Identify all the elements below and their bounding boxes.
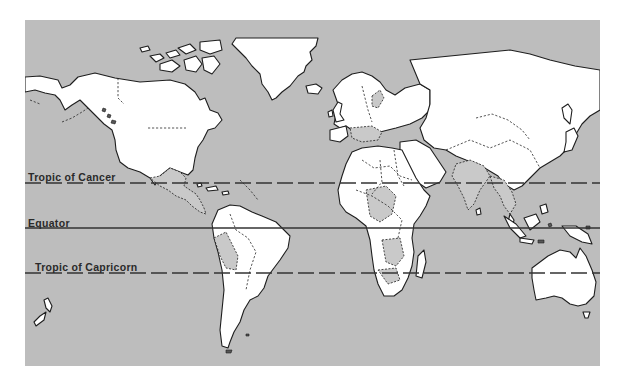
iceland [306, 84, 322, 94]
australia [532, 248, 596, 306]
japan [564, 128, 578, 152]
tasmania [583, 312, 590, 318]
north-america [25, 73, 222, 185]
europe [333, 72, 430, 138]
tropic-of-capricorn-label: Tropic of Capricorn [35, 261, 138, 273]
new-zealand [44, 298, 52, 312]
map-graphic [25, 20, 600, 366]
india [452, 160, 490, 210]
madagascar [416, 250, 426, 278]
equator-label: Equator [28, 217, 70, 229]
south-america [212, 205, 290, 348]
tropic-of-cancer-label: Tropic of Cancer [28, 171, 116, 183]
greenland [232, 38, 318, 100]
world-map: Tropic of Cancer Equator Tropic of Capri… [25, 20, 600, 366]
